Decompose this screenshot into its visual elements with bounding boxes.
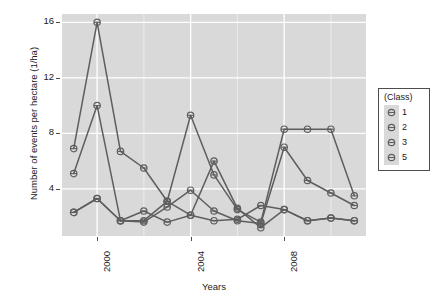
- y-tick-label: 12: [8, 72, 54, 82]
- legend-key-icon: [384, 120, 399, 135]
- y-tick-label: 16: [8, 16, 54, 26]
- y-axis-tick-labels: 481216: [0, 0, 54, 304]
- x-tick-mark: [97, 237, 98, 241]
- y-tick-mark: [56, 22, 60, 23]
- legend-items: 1235: [384, 105, 425, 165]
- y-tick-mark: [56, 133, 60, 134]
- plot-svg: [62, 14, 366, 236]
- y-tick-label: 8: [8, 127, 54, 137]
- legend-item-label: 1: [402, 108, 407, 117]
- legend-key-icon: [384, 105, 399, 120]
- legend-item-label: 5: [402, 153, 407, 162]
- legend-item-label: 2: [402, 123, 407, 132]
- legend-item[interactable]: 2: [384, 120, 425, 135]
- legend-key-icon: [384, 135, 399, 150]
- chart-figure: Number of events per hectare (1/ha) 4812…: [0, 0, 439, 304]
- x-axis-title: Years: [62, 281, 366, 292]
- legend-item[interactable]: 5: [384, 150, 425, 165]
- legend-key-icon: [384, 150, 399, 165]
- series-1: [71, 19, 358, 225]
- x-tick-mark: [284, 237, 285, 241]
- legend-title: (Class): [384, 93, 425, 103]
- x-tick-mark: [191, 237, 192, 241]
- y-tick-mark: [56, 78, 60, 79]
- x-tick-label: 2008: [288, 251, 299, 272]
- y-tick-mark: [56, 189, 60, 190]
- legend-item[interactable]: 3: [384, 135, 425, 150]
- legend-item[interactable]: 1: [384, 105, 425, 120]
- x-tick-label: 2004: [195, 251, 206, 272]
- legend: (Class) 1235: [378, 88, 430, 171]
- plot-panel: [62, 14, 366, 236]
- x-tick-label: 2000: [101, 251, 112, 272]
- y-tick-label: 4: [8, 183, 54, 193]
- gridlines-major: [62, 14, 366, 236]
- legend-item-label: 3: [402, 138, 407, 147]
